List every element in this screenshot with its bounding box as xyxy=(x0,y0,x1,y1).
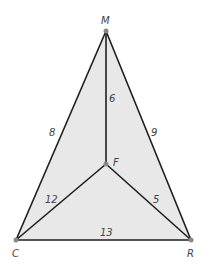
length-cf: 12 xyxy=(45,194,58,205)
length-mc: 8 xyxy=(49,127,55,138)
point-r xyxy=(189,238,194,243)
length-mr: 9 xyxy=(151,127,157,138)
triangle-diagram: M F C R 8 9 6 12 5 13 xyxy=(0,0,212,272)
label-c: C xyxy=(12,248,19,259)
label-m: M xyxy=(101,15,110,26)
point-c xyxy=(14,238,19,243)
label-f: F xyxy=(113,157,119,168)
length-mf: 6 xyxy=(109,93,115,104)
triangle-mcr-fill xyxy=(16,31,191,240)
point-f xyxy=(104,162,109,167)
length-cr: 13 xyxy=(100,227,113,238)
length-fr: 5 xyxy=(153,194,159,205)
point-m xyxy=(104,29,109,34)
label-r: R xyxy=(187,248,194,259)
